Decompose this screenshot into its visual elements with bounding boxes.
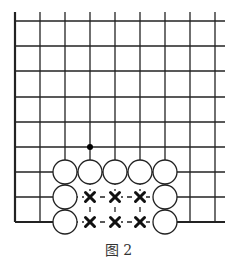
white-stone-icon <box>78 160 102 184</box>
x-mark-icon <box>84 191 96 203</box>
white-stone-icon <box>128 160 152 184</box>
figure-caption: 图 2 <box>0 239 237 259</box>
black-dot-icon <box>87 144 93 150</box>
x-mark-icon <box>134 191 146 203</box>
x-mark-icon <box>84 216 96 228</box>
x-mark-icon <box>134 216 146 228</box>
x-mark-icon <box>109 191 121 203</box>
white-stone-icon <box>153 160 177 184</box>
black-dot-marker <box>87 144 93 150</box>
x-mark-icon <box>109 216 121 228</box>
white-stone-icon <box>53 160 77 184</box>
white-stone-icon <box>53 185 77 209</box>
white-stone-icon <box>53 210 77 234</box>
go-board-diagram <box>0 0 237 236</box>
white-stone-icon <box>153 210 177 234</box>
white-stone-icon <box>103 160 127 184</box>
white-stone-icon <box>153 185 177 209</box>
